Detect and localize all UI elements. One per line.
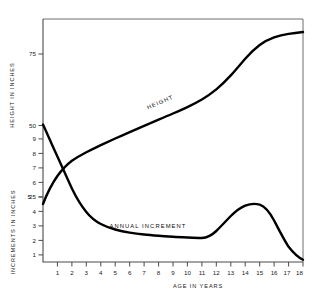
- x-axis-ticks: [57, 262, 303, 267]
- increment-tick-label: 2: [33, 237, 37, 244]
- x-tick-label: 6: [128, 269, 132, 276]
- height-tick-label: 50: [29, 122, 36, 129]
- increment-tick-label: 9: [33, 135, 37, 142]
- height-axis-title: HEIGHT IN INCHES: [9, 62, 15, 127]
- x-tick-label: 14: [242, 269, 249, 276]
- x-tick-label: 4: [99, 269, 103, 276]
- annual-increment-curve: [43, 125, 303, 260]
- height-curve-label: HEIGHT: [146, 94, 175, 111]
- height-tick-label: 75: [29, 50, 36, 57]
- x-tick-label: 18: [296, 269, 303, 276]
- x-tick-label: 15: [256, 269, 263, 276]
- increment-tick-label: 5: [28, 193, 32, 200]
- x-axis-tick-labels: 1 2 3 4 5 6 7 8 9 10 11 12 13 14 15 16 1…: [56, 269, 304, 276]
- x-tick-label: 17: [284, 269, 291, 276]
- x-tick-label: 11: [199, 269, 206, 276]
- height-curve: [43, 32, 303, 204]
- x-tick-label: 13: [227, 269, 234, 276]
- chart-canvas: 1 2 3 4 5 6 7 8 9 10 11 12 13 14 15 16 1…: [0, 0, 326, 297]
- x-tick-label: 9: [171, 269, 175, 276]
- increment-tick-label: 8: [33, 150, 37, 157]
- x-tick-label: 8: [157, 269, 161, 276]
- x-tick-label: 12: [213, 269, 220, 276]
- x-tick-label: 2: [70, 269, 74, 276]
- growth-chart-figure: 1 2 3 4 5 6 7 8 9 10 11 12 13 14 15 16 1…: [0, 0, 326, 297]
- increment-tick-label: 3: [33, 222, 37, 229]
- x-tick-label: 7: [142, 269, 146, 276]
- annual-increment-curve-label: ANNUAL INCREMENT: [110, 223, 187, 229]
- x-axis-title: AGE IN YEARS: [173, 283, 223, 289]
- x-tick-label: 5: [113, 269, 117, 276]
- x-tick-label: 10: [184, 269, 191, 276]
- increment-axis-ticks: [39, 139, 44, 255]
- increment-tick-label: 4: [33, 208, 37, 215]
- increment-axis-title: INCREMENTS IN INCHES: [10, 190, 16, 275]
- increment-tick-label: 1: [33, 251, 37, 258]
- x-tick-label: 16: [271, 269, 278, 276]
- increment-tick-label: 7: [33, 164, 37, 171]
- increment-tick-label: 6: [33, 179, 37, 186]
- x-tick-label: 3: [85, 269, 89, 276]
- x-tick-label: 1: [56, 269, 60, 276]
